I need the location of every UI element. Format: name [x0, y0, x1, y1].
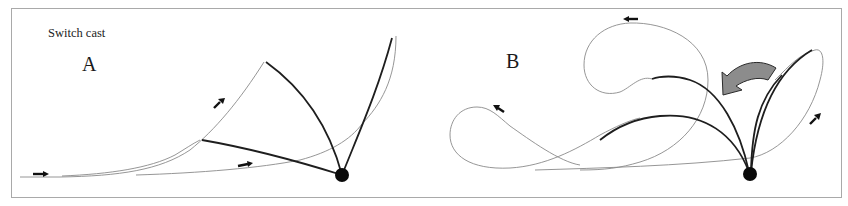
rod-high [266, 62, 342, 175]
line-loop-small [450, 107, 640, 168]
direction-arrow-icon [33, 171, 49, 177]
direction-arrow-icon [214, 98, 225, 108]
line-path-bottom [535, 50, 823, 170]
pivot-point [743, 167, 757, 181]
line-path-upper [20, 62, 264, 177]
direction-arrow-icon [238, 161, 253, 167]
pivot-point [335, 168, 349, 182]
rod-tip-forward [342, 38, 392, 175]
panel-b [450, 16, 823, 181]
cast-diagram [0, 0, 848, 206]
rotation-arrow-icon [722, 62, 776, 95]
line-path-middle [62, 140, 200, 176]
direction-arrow-icon [623, 16, 638, 22]
rod-position-3 [751, 75, 782, 172]
direction-arrow-icon [493, 105, 504, 112]
direction-arrow-icon [810, 113, 821, 124]
line-loop-large [580, 23, 708, 170]
panel-a [20, 36, 396, 182]
